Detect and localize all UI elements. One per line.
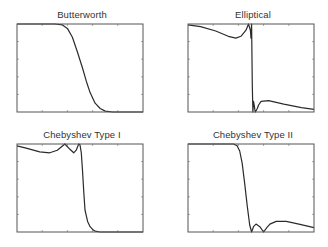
axes-frame [17, 144, 143, 232]
chart-svg [188, 144, 314, 232]
panel-title: Chebyshev Type I [0, 129, 164, 140]
panel-elliptical: Elliptical [171, 0, 328, 120]
axes-frame [17, 24, 143, 112]
panel-butterworth: Butterworth [0, 0, 164, 120]
panel-title: Chebyshev Type II [171, 129, 328, 140]
chart-svg [188, 24, 314, 112]
data-line [17, 144, 143, 232]
axes-frame [188, 144, 314, 232]
panel-title: Butterworth [0, 9, 164, 20]
chart-svg [17, 24, 143, 112]
panel-chebyshev-type-2: Chebyshev Type II [171, 120, 328, 240]
chart-svg [17, 144, 143, 232]
plot-area [188, 24, 314, 112]
axis-ticks [17, 24, 143, 112]
data-line [17, 24, 143, 112]
data-line [188, 24, 314, 112]
axis-ticks [188, 144, 314, 232]
plot-area [17, 144, 143, 232]
plot-area [17, 24, 143, 112]
panel-chebyshev-type-1: Chebyshev Type I [0, 120, 164, 240]
plot-area [188, 144, 314, 232]
panel-title: Elliptical [171, 9, 328, 20]
data-line [188, 144, 314, 232]
axis-ticks [17, 144, 143, 232]
